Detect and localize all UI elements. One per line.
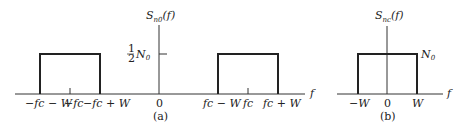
tick-label-fc-minus-w: fc − W <box>202 97 242 110</box>
level-label-b: N0 <box>420 48 436 62</box>
ylabel-a: Sn0(f) <box>146 9 175 24</box>
panel-a: Sn0(f) 1 2 N0 −fc − W −fc −fc + W 0 fc −… <box>15 9 316 123</box>
caption-a: (a) <box>153 110 168 123</box>
level-label-a: N0 <box>135 48 151 62</box>
tick-label-w: W <box>412 97 425 110</box>
psd-figure: Sn0(f) 1 2 N0 −fc − W −fc −fc + W 0 fc −… <box>0 0 462 128</box>
caption-b: (b) <box>380 110 396 123</box>
tick-label-fc: fc <box>242 97 253 110</box>
level-frac-den: 2 <box>128 52 135 65</box>
tick-label-neg-fc-plus-w: −fc + W <box>83 97 132 110</box>
xlabel-a: f <box>309 87 316 100</box>
tick-label-fc-plus-w: fc + W <box>262 97 302 110</box>
tick-label-neg-w: −W <box>349 97 371 110</box>
tick-label-neg-fc: −fc <box>64 97 83 110</box>
panel-b: Snc(f) N0 −W 0 W f (b) <box>337 9 453 123</box>
tick-label-zero-b: 0 <box>384 97 391 110</box>
xlabel-b: f <box>446 87 453 100</box>
tick-label-zero-a: 0 <box>156 97 163 110</box>
ylabel-b: Snc(f) <box>375 9 404 24</box>
